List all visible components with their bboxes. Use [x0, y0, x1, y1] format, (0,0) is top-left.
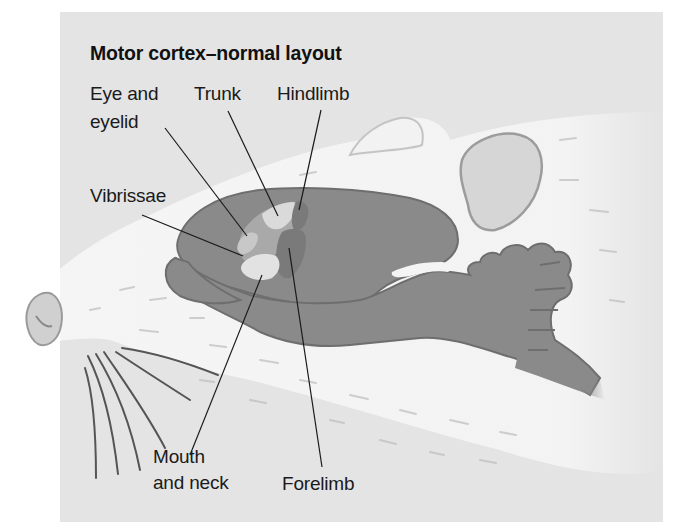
- label-forelimb: Forelimb: [282, 470, 354, 498]
- label-mouth-and-neck: Mouth and neck: [153, 444, 229, 496]
- label-eye-and-eyelid-line1: Eye and: [90, 80, 158, 108]
- label-vibrissae: Vibrissae: [90, 182, 166, 210]
- nose: [26, 293, 61, 345]
- label-mouth-and-neck-line2: and neck: [153, 470, 229, 496]
- label-hindlimb: Hindlimb: [277, 80, 349, 108]
- label-trunk: Trunk: [194, 80, 241, 108]
- figure-title: Motor cortex–normal layout: [90, 42, 342, 65]
- label-eye-and-eyelid-line2: eyelid: [90, 108, 158, 136]
- label-mouth-and-neck-line1: Mouth: [153, 444, 229, 470]
- label-eye-and-eyelid: Eye and eyelid: [90, 80, 158, 136]
